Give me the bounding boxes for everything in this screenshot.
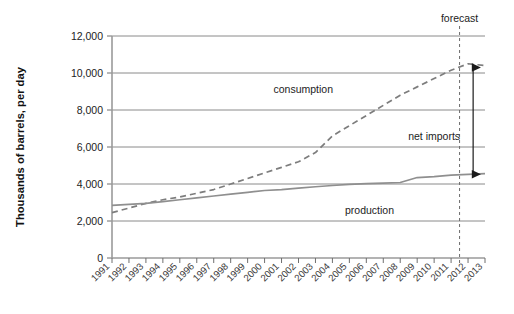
chart-figure: 02,0004,0006,0008,00010,00012,0001991199… (0, 0, 514, 314)
y-tick-label-12000: 12,000 (71, 30, 103, 42)
y-tick-label-2000: 2,000 (77, 215, 103, 227)
y-tick-label-4000: 4,000 (77, 178, 103, 190)
net-imports-label: net imports (408, 130, 460, 142)
forecast-label: forecast (441, 12, 478, 24)
x-tick-label-2013: 2013 (462, 261, 485, 284)
y-tick-label-10000: 10,000 (71, 67, 103, 79)
y-axis-title: Thousands of barrels, per day (14, 66, 26, 227)
y-tick-label-6000: 6,000 (77, 141, 103, 153)
y-tick-label-8000: 8,000 (77, 104, 103, 116)
series-line-production (112, 174, 485, 206)
oil-production-consumption-line-chart: 02,0004,0006,0008,00010,00012,0001991199… (0, 0, 514, 314)
series-label-consumption: consumption (273, 83, 333, 95)
series-label-production: production (345, 204, 394, 216)
